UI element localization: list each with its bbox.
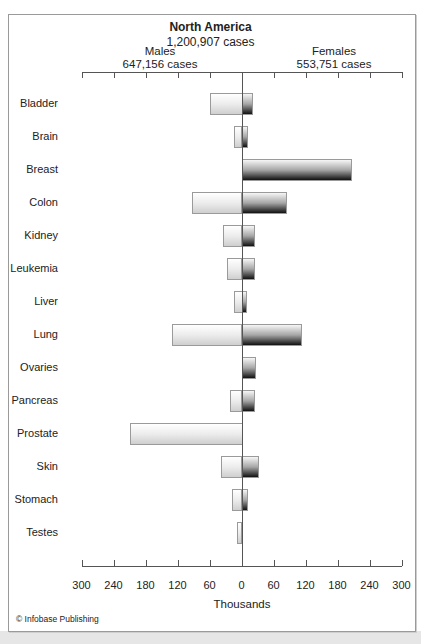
- male-bar: [192, 192, 243, 214]
- bottom-tick: [146, 560, 147, 566]
- top-tick: [178, 72, 179, 78]
- top-tick: [370, 72, 371, 78]
- x-tick-label: 60: [259, 579, 289, 591]
- bottom-tick: [402, 560, 403, 566]
- female-bar: [242, 456, 259, 478]
- copyright-notice: © Infobase Publishing: [16, 614, 99, 624]
- x-tick-label: 120: [291, 579, 321, 591]
- bottom-tick: [210, 560, 211, 566]
- bottom-tick: [370, 560, 371, 566]
- male-bar: [172, 324, 243, 346]
- male-bar: [221, 456, 242, 478]
- top-tick: [338, 72, 339, 78]
- x-tick-label: 120: [163, 579, 193, 591]
- female-bar: [242, 489, 249, 511]
- x-tick-label: 240: [355, 579, 385, 591]
- female-bar: [242, 192, 288, 214]
- female-bar: [242, 357, 257, 379]
- category-label: Liver: [10, 295, 58, 307]
- females-total: 553,751 cases: [279, 58, 389, 71]
- males-total: 647,156 cases: [110, 58, 210, 71]
- x-tick-label: 240: [99, 579, 129, 591]
- bottom-tick: [306, 560, 307, 566]
- x-tick-label: 60: [195, 579, 225, 591]
- x-tick-label: 0: [227, 579, 257, 591]
- x-tick-label: 180: [131, 579, 161, 591]
- chart-title: North America: [0, 20, 421, 34]
- category-label: Prostate: [10, 427, 58, 439]
- female-bar: [242, 324, 302, 346]
- zero-line-overlay: [242, 72, 243, 566]
- top-tick: [274, 72, 275, 78]
- category-label: Skin: [10, 460, 58, 472]
- category-label: Leukemia: [10, 262, 58, 274]
- male-bar: [210, 93, 243, 115]
- females-label: Females: [279, 45, 389, 58]
- bottom-tick: [178, 560, 179, 566]
- bottom-tick: [82, 560, 83, 566]
- top-tick: [114, 72, 115, 78]
- male-bar: [227, 258, 242, 280]
- category-label: Testes: [10, 526, 58, 538]
- category-label: Ovaries: [10, 361, 58, 373]
- bottom-tick: [338, 560, 339, 566]
- top-tick: [402, 72, 403, 78]
- female-bar: [242, 258, 256, 280]
- category-label: Colon: [10, 196, 58, 208]
- x-tick-label: 300: [67, 579, 97, 591]
- males-label: Males: [110, 45, 210, 58]
- male-bar: [223, 225, 242, 247]
- bottom-tick: [114, 560, 115, 566]
- category-label: Bladder: [10, 97, 58, 109]
- category-label: Breast: [10, 163, 58, 175]
- x-axis-label: Thousands: [192, 598, 292, 610]
- top-tick: [306, 72, 307, 78]
- top-tick: [146, 72, 147, 78]
- category-label: Pancreas: [10, 394, 58, 406]
- male-bar: [130, 423, 243, 445]
- female-bar: [242, 390, 255, 412]
- top-tick: [210, 72, 211, 78]
- category-label: Kidney: [10, 229, 58, 241]
- top-tick: [82, 72, 83, 78]
- x-tick-label: 180: [323, 579, 353, 591]
- bottom-tick: [274, 560, 275, 566]
- female-bar: [242, 93, 253, 115]
- females-header: Females 553,751 cases: [279, 45, 389, 71]
- category-label: Stomach: [10, 493, 58, 505]
- bottom-axis-line: [82, 566, 402, 567]
- category-label: Lung: [10, 328, 58, 340]
- female-bar: [242, 225, 256, 247]
- bottom-band: [0, 631, 421, 644]
- female-bar: [242, 159, 353, 181]
- males-header: Males 647,156 cases: [110, 45, 210, 71]
- x-tick-label: 300: [387, 579, 417, 591]
- category-label: Brain: [10, 130, 58, 142]
